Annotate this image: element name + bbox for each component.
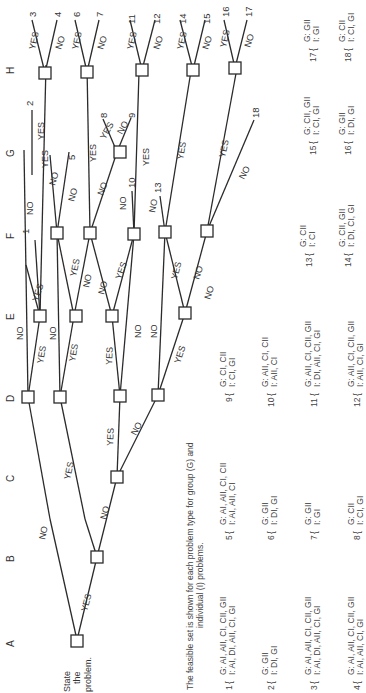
svg-text:{: { — [352, 393, 362, 396]
leaf-10: 10 — [126, 177, 137, 188]
svg-text:{: { — [308, 141, 318, 144]
edge-label-no: NO — [47, 171, 60, 187]
edge-label-no: NO — [15, 327, 25, 341]
edge-label-yes: YES — [105, 428, 116, 446]
svg-text:11: 11 — [309, 398, 319, 407]
feasible-set-2: 2{ G: GII I: DI, GI — [260, 646, 279, 690]
leaf-8: 8 — [98, 113, 109, 118]
column-label-d: D — [5, 395, 16, 402]
column-label-a: A — [5, 640, 16, 647]
node-a — [71, 635, 83, 647]
feasible-set-1: 1{ G: AI, AII, CI, CII, GII I: AI, DI, A… — [218, 597, 237, 690]
feasible-set-individual: I: AI, AII, CI — [227, 482, 237, 525]
leaf-18: 18 — [250, 107, 261, 118]
edge-label-yes: YES — [169, 261, 183, 281]
leaf-9: 9 — [126, 113, 137, 118]
feasible-sets: 1{ G: AI, AII, CI, CII, GII I: AI, DI, A… — [218, 13, 365, 690]
svg-text:{: { — [266, 681, 276, 684]
svg-text:8: 8 — [352, 535, 362, 540]
node-f5 — [201, 225, 213, 237]
edge-label-yes: YES — [79, 593, 93, 613]
svg-text:12: 12 — [352, 397, 362, 407]
tree-nodes — [22, 62, 241, 647]
node-g1 — [114, 146, 126, 158]
start-label-line-2: the — [72, 671, 82, 684]
edge-label-yes: YES — [141, 148, 151, 166]
feasible-set-4: 4{ G: AI, AII, CI, CII, GII I: AI, AII, … — [346, 597, 365, 690]
node-h1 — [39, 67, 51, 79]
feasible-set-8: 8{ G: CII I: CI, GI — [346, 496, 365, 540]
leaf-5: 5 — [66, 155, 77, 160]
feasible-set-11: 11{ G: AII, CI, CII, GII I: DI, AII, CI,… — [303, 321, 322, 407]
feasible-set-17: 17{ G: GII I: GI — [302, 19, 321, 62]
node-e3 — [106, 310, 118, 322]
edge-label-no: NO — [133, 325, 143, 339]
svg-text:7: 7 — [309, 535, 319, 540]
edge-label-no: NO — [149, 325, 159, 339]
svg-text:4: 4 — [352, 685, 362, 690]
edge-label-no: NO — [48, 327, 58, 341]
leaf-17: 17 — [243, 6, 254, 17]
node-f2 — [84, 227, 96, 239]
caption: The feasible set is shown for each probl… — [185, 442, 205, 690]
node-e1 — [34, 310, 46, 322]
svg-text:{: { — [352, 531, 362, 534]
edge-label-yes: YES — [104, 347, 115, 365]
edge-label-no: NO — [25, 202, 35, 216]
caption-line-1: The feasible set is shown for each probl… — [185, 442, 195, 690]
feasible-set-individual: I: DI, GI — [269, 646, 279, 675]
edge-label-no: NO — [151, 35, 165, 51]
edge-label-no: NO — [53, 35, 67, 51]
edge-label-no: NO — [98, 505, 111, 521]
leaf-12: 12 — [151, 13, 162, 24]
node-h3 — [136, 64, 148, 76]
feasible-set-individual: I: CI — [307, 231, 317, 247]
svg-text:18: 18 — [343, 52, 353, 62]
edge-label-no: NO — [242, 33, 256, 49]
node-h5 — [229, 62, 241, 74]
feasible-set-3: 3{ G: AI, AII, CI, CII, GII I: AI, DI, A… — [303, 597, 322, 690]
edge-label-no: NO — [66, 187, 79, 203]
feasible-set-16: 16{ G: GII I: DI, GI — [337, 106, 356, 155]
svg-text:{: { — [224, 681, 234, 684]
leaf-13: 13 — [152, 182, 163, 193]
edge-label-no: NO — [81, 273, 94, 288]
feasible-set-individual: I: AI, AII, CI, GI — [355, 619, 365, 675]
svg-text:{: { — [266, 393, 276, 396]
node-e4 — [179, 307, 191, 319]
edge-label-yes: YES — [217, 139, 231, 159]
edge-label-no: NO — [37, 525, 50, 540]
leaf-15: 15 — [201, 13, 212, 24]
edge-label-yes: YES — [67, 343, 80, 362]
node-c — [111, 471, 123, 483]
edge-label-no: NO — [115, 119, 130, 136]
edge-label-no: NO — [118, 197, 128, 211]
feasible-set-9: 9{ G: CI, CII I: CI, GI — [218, 352, 237, 402]
node-d4 — [152, 389, 164, 401]
leaf-3: 3 — [27, 12, 38, 17]
feasible-set-individual: I: CI, GI — [311, 106, 321, 135]
node-h4 — [187, 64, 199, 76]
feasible-set-7: 7{ G: GII I: GI — [303, 502, 322, 540]
svg-text:10: 10 — [266, 397, 276, 407]
svg-text:{: { — [343, 141, 353, 144]
edge-label-no: NO — [200, 35, 214, 51]
node-d3 — [114, 390, 126, 402]
leaf-2: 2 — [24, 101, 35, 106]
edge-label-yes: YES — [30, 282, 45, 302]
edge-label-yes: YES — [113, 260, 129, 280]
leaf-4: 4 — [52, 12, 63, 17]
node-e2 — [70, 310, 82, 322]
feasible-set-individual: I: AI, DI, AII, CI, GI — [312, 606, 322, 675]
edge-label-yes: YES — [62, 461, 76, 481]
feasible-set-5: 5{ G: AI, AII, CI, CII I: AI, AII, CI — [218, 463, 237, 540]
column-label-e: E — [5, 313, 16, 320]
edge-label-no: NO — [95, 181, 109, 197]
feasible-set-individual: I: GI — [311, 26, 321, 42]
feasible-set-individual: I: AI, DI, AII, CI, GI — [227, 606, 237, 675]
edge-label-no: NO — [96, 280, 109, 296]
column-label-b: B — [5, 555, 16, 562]
svg-text:6: 6 — [266, 535, 276, 540]
feasible-set-individual: I: AII, CI — [269, 357, 279, 387]
edge-label-no: NO — [147, 198, 159, 213]
